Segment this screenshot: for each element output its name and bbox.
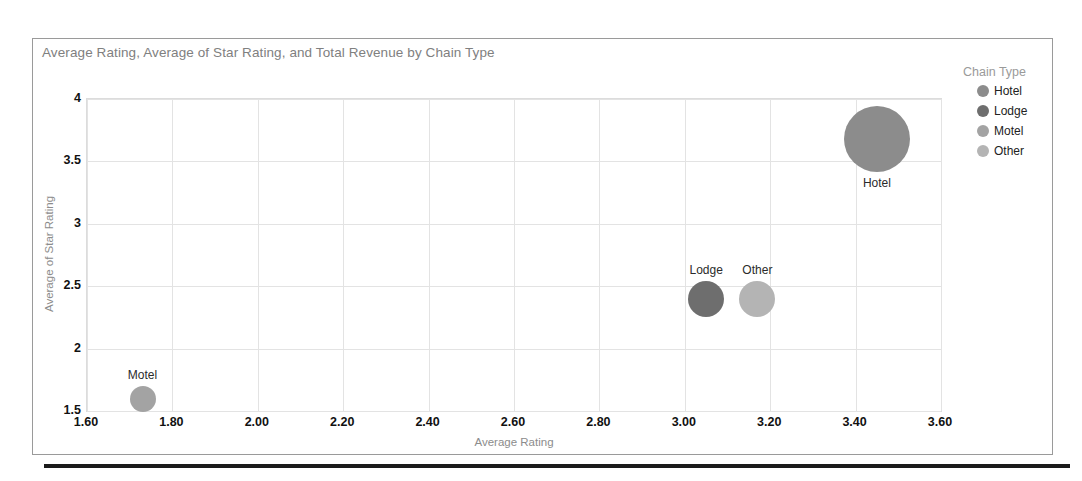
gridline-horizontal — [87, 99, 941, 100]
gridline-vertical — [343, 99, 344, 411]
x-axis: 1.601.802.002.202.402.602.803.003.203.40… — [86, 415, 942, 435]
gridline-vertical — [599, 99, 600, 411]
bubble-hotel[interactable] — [844, 106, 910, 172]
x-tick-label: 2.80 — [586, 415, 610, 429]
gridline-horizontal — [87, 411, 941, 412]
y-tick-label: 2.5 — [64, 278, 81, 292]
gridline-vertical — [172, 99, 173, 411]
gridline-vertical — [770, 99, 771, 411]
gridline-vertical — [429, 99, 430, 411]
page-title: Average Rating, Average of Star Rating, … — [42, 45, 495, 60]
bubble-motel[interactable] — [130, 386, 156, 412]
gridline-vertical — [941, 99, 942, 411]
x-tick-label: 3.20 — [757, 415, 781, 429]
divider — [44, 464, 1070, 468]
legend-item-hotel[interactable]: Hotel — [977, 84, 1049, 98]
legend-item-motel[interactable]: Motel — [977, 124, 1049, 138]
x-tick-label: 3.60 — [928, 415, 952, 429]
bubble-lodge[interactable] — [688, 281, 724, 317]
x-tick-label: 2.20 — [330, 415, 354, 429]
bubble-label-motel: Motel — [128, 368, 157, 382]
x-tick-label: 2.00 — [245, 415, 269, 429]
gridline-horizontal — [87, 224, 941, 225]
legend-item-label: Motel — [994, 124, 1023, 138]
bubble-label-hotel: Hotel — [863, 176, 891, 190]
y-tick-label: 3.5 — [64, 153, 81, 167]
bubble-other[interactable] — [739, 281, 775, 317]
gridline-vertical — [258, 99, 259, 411]
x-tick-label: 2.40 — [415, 415, 439, 429]
legend-swatch-circle-icon — [977, 125, 989, 137]
legend-items: HotelLodgeMotelOther — [963, 84, 1049, 158]
legend: Chain Type HotelLodgeMotelOther — [963, 65, 1049, 164]
bubble-label-other: Other — [742, 263, 772, 277]
legend-item-label: Hotel — [994, 84, 1022, 98]
bubble-label-lodge: Lodge — [689, 263, 722, 277]
legend-item-label: Other — [994, 144, 1024, 158]
y-tick-label: 3 — [74, 216, 81, 230]
gridline-vertical — [685, 99, 686, 411]
x-tick-label: 1.80 — [159, 415, 183, 429]
gridline-vertical — [514, 99, 515, 411]
legend-title: Chain Type — [963, 65, 1049, 79]
legend-swatch-circle-icon — [977, 105, 989, 117]
y-axis-title: Average of Star Rating — [43, 194, 55, 314]
gridline-horizontal — [87, 349, 941, 350]
legend-item-label: Lodge — [994, 104, 1027, 118]
x-tick-label: 3.40 — [842, 415, 866, 429]
gridline-horizontal — [87, 161, 941, 162]
x-tick-label: 3.00 — [672, 415, 696, 429]
x-tick-label: 1.60 — [74, 415, 98, 429]
legend-item-lodge[interactable]: Lodge — [977, 104, 1049, 118]
gridline-vertical — [87, 99, 88, 411]
gridline-horizontal — [87, 286, 941, 287]
x-axis-title: Average Rating — [86, 436, 942, 448]
y-tick-label: 2 — [74, 341, 81, 355]
legend-item-other[interactable]: Other — [977, 144, 1049, 158]
x-tick-label: 2.60 — [501, 415, 525, 429]
report-container: Average Rating, Average of Star Rating, … — [32, 38, 1053, 455]
legend-swatch-circle-icon — [977, 85, 989, 97]
legend-swatch-circle-icon — [977, 145, 989, 157]
plot-area: HotelLodgeOtherMotel — [86, 98, 942, 412]
y-axis: Average of Star Rating 1.522.533.54 — [33, 98, 81, 412]
y-tick-label: 4 — [74, 91, 81, 105]
